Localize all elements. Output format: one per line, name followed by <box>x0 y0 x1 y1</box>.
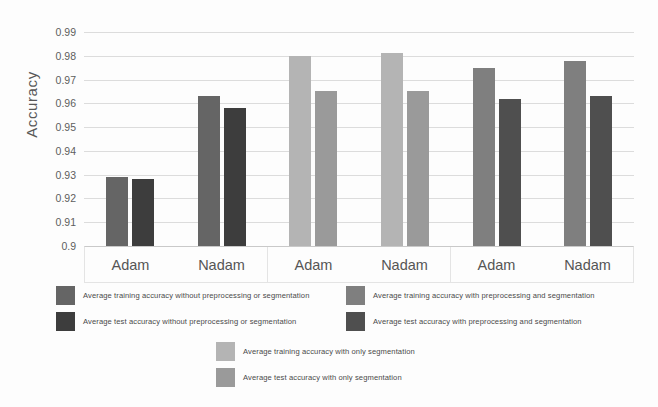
x-axis-group: AdamNadam <box>451 247 633 282</box>
y-axis-tick-label: 0.93 <box>56 169 76 181</box>
legend-swatch-icon <box>216 368 235 387</box>
bar <box>381 53 403 246</box>
legend-item-label: Average test accuracy with preprocessing… <box>373 317 582 326</box>
bar <box>106 177 128 246</box>
bar <box>473 68 495 246</box>
plot-area: 0.990.980.970.960.950.940.930.920.910.9 <box>84 32 634 246</box>
x-axis-category-label: Nadam <box>359 247 450 282</box>
x-axis-labels: AdamNadamAdamNadamAdamNadam <box>84 246 634 283</box>
y-axis-tick-label: 0.9 <box>61 240 76 252</box>
legend-item-label: Average training accuracy with preproces… <box>373 291 595 300</box>
bar <box>590 96 612 246</box>
x-axis-group: AdamNadam <box>85 247 268 282</box>
y-axis-title: Accuracy <box>23 40 40 170</box>
legend-item[interactable]: Average test accuracy with preprocessing… <box>346 312 636 331</box>
legend-swatch-icon <box>56 286 75 305</box>
chart-legend: Average training accuracy without prepro… <box>56 286 636 387</box>
legend-item-label: Average training accuracy with only segm… <box>243 347 415 356</box>
legend-item[interactable]: Average training accuracy with preproces… <box>346 286 636 305</box>
legend-swatch-icon <box>216 342 235 361</box>
bar <box>132 179 154 246</box>
legend-swatch-icon <box>56 312 75 331</box>
x-axis-category-label: Adam <box>451 247 542 282</box>
legend-item-label: Average test accuracy without preprocess… <box>83 317 296 326</box>
x-axis-group: AdamNadam <box>268 247 451 282</box>
y-axis-tick-label: 0.98 <box>56 50 76 62</box>
bar <box>289 56 311 246</box>
y-axis-tick-label: 0.94 <box>56 145 76 157</box>
bar <box>564 61 586 246</box>
y-axis-tick-label: 0.99 <box>56 26 76 38</box>
x-axis-category-label: Nadam <box>176 247 267 282</box>
legend-item[interactable]: Average test accuracy without preprocess… <box>56 312 346 331</box>
bar-chart-figure: Accuracy 0.990.980.970.960.950.940.930.9… <box>0 0 658 407</box>
legend-item[interactable]: Average test accuracy with only segmenta… <box>216 368 402 387</box>
legend-swatch-icon <box>346 312 365 331</box>
legend-item-label: Average test accuracy with only segmenta… <box>243 373 402 382</box>
bar <box>224 108 246 246</box>
x-axis-category-label: Nadam <box>542 247 633 282</box>
bar <box>407 91 429 246</box>
y-axis-tick-label: 0.92 <box>56 192 76 204</box>
legend-swatch-icon <box>346 286 365 305</box>
y-axis-tick-label: 0.96 <box>56 97 76 109</box>
bar <box>499 99 521 246</box>
y-axis-tick-label: 0.97 <box>56 74 76 86</box>
legend-item[interactable]: Average training accuracy without prepro… <box>56 286 346 305</box>
x-axis-category-label: Adam <box>268 247 359 282</box>
bar <box>198 96 220 246</box>
legend-top-row: Average training accuracy without prepro… <box>56 286 636 331</box>
legend-item-label: Average training accuracy without prepro… <box>83 291 310 300</box>
y-axis-tick-label: 0.91 <box>56 216 76 228</box>
legend-item[interactable]: Average training accuracy with only segm… <box>216 342 415 361</box>
x-axis-category-label: Adam <box>85 247 176 282</box>
y-axis-tick-label: 0.95 <box>56 121 76 133</box>
bar <box>315 91 337 246</box>
legend-left-column: Average training accuracy without prepro… <box>56 286 346 331</box>
bars-container <box>84 32 634 246</box>
legend-right-column: Average training accuracy with preproces… <box>346 286 636 331</box>
legend-center-column: Average training accuracy with only segm… <box>56 342 636 387</box>
